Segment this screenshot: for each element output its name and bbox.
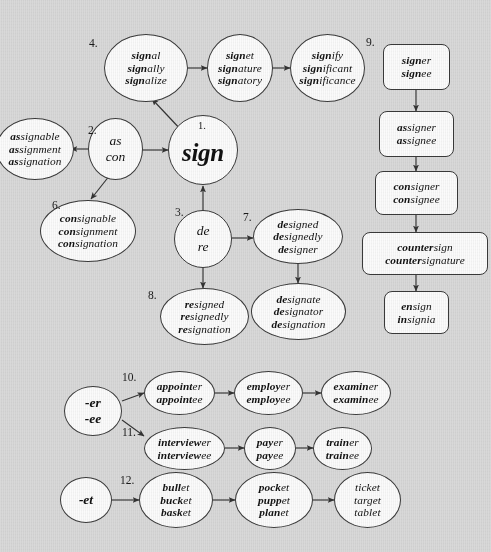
number-label-12: 12. bbox=[120, 474, 134, 486]
node-suffix-et-text: -et bbox=[79, 492, 93, 508]
number-label-1: 1. bbox=[198, 120, 206, 131]
node-consigner-box[interactable]: consigner consignee bbox=[375, 171, 458, 215]
number-label-8: 8. bbox=[148, 289, 157, 301]
node-pocket-group-text: pocket puppet planet bbox=[256, 481, 292, 519]
node-pocket-group[interactable]: pocket puppet planet bbox=[235, 472, 313, 528]
node-bullet-group-text: bullet bucket basket bbox=[158, 481, 193, 519]
node-countersign-box[interactable]: countersign countersignature bbox=[362, 232, 488, 275]
node-consigner-box-text: consigner consignee bbox=[391, 180, 442, 205]
node-suffix-er-ee-text: -er -ee bbox=[85, 395, 101, 427]
node-design-group[interactable]: designed designedly designer bbox=[253, 209, 343, 264]
node-prefix-de-re-text: de re bbox=[197, 223, 210, 255]
node-examiner-group-text: examiner examinee bbox=[331, 380, 380, 405]
node-trainer-group-text: trainer trainee bbox=[324, 436, 361, 461]
node-ticket-group-text: ticket target tablet bbox=[352, 481, 383, 519]
node-ticket-group[interactable]: ticket target tablet bbox=[334, 472, 401, 528]
node-prefix-as-con-text: as con bbox=[106, 133, 126, 165]
node-signet-group-text: signet signature signatory bbox=[216, 49, 264, 87]
node-consign-group-text: consignable consignment consignation bbox=[56, 212, 120, 250]
number-label-9: 9. bbox=[366, 36, 375, 48]
node-appointer-group[interactable]: appointer appointee bbox=[144, 371, 215, 415]
node-interviewer-group-text: interviewer interviewee bbox=[156, 436, 214, 461]
node-hub-sign-label: sign bbox=[182, 139, 224, 167]
node-design-group-text: designed designedly designer bbox=[271, 218, 324, 256]
node-designate-group-text: designate designator designation bbox=[270, 293, 328, 331]
node-countersign-box-text: countersign countersignature bbox=[383, 241, 467, 266]
number-label-4: 4. bbox=[89, 37, 98, 49]
node-examiner-group[interactable]: examiner examinee bbox=[321, 371, 391, 415]
node-employer-group-text: employer employee bbox=[244, 380, 292, 405]
node-trainer-group[interactable]: trainer trainee bbox=[313, 427, 372, 470]
node-signify-group-text: signify significant significance bbox=[297, 49, 357, 87]
node-signal-group-text: signal signally signalize bbox=[123, 49, 169, 87]
node-signer-box-text: signer signee bbox=[399, 54, 433, 79]
node-prefix-de-re[interactable]: de re bbox=[174, 210, 232, 268]
node-appointer-group-text: appointer appointee bbox=[154, 380, 204, 405]
node-suffix-er-ee[interactable]: -er -ee bbox=[64, 386, 122, 436]
node-assigner-box-text: assigner assignee bbox=[395, 121, 439, 146]
node-employer-group[interactable]: employer employee bbox=[234, 371, 303, 415]
node-assign-group-text: assignable assignment assignation bbox=[6, 130, 63, 168]
node-payer-group-text: payer payee bbox=[255, 436, 286, 461]
node-suffix-et[interactable]: -et bbox=[60, 477, 112, 523]
node-assigner-box[interactable]: assigner assignee bbox=[379, 111, 454, 157]
number-label-3: 3. bbox=[175, 206, 184, 218]
arrow-erее-to-appointer bbox=[122, 393, 144, 401]
node-interviewer-group[interactable]: interviewer interviewee bbox=[144, 427, 225, 470]
node-payer-group[interactable]: payer payee bbox=[244, 427, 296, 470]
node-resign-group[interactable]: resigned resignedly resignation bbox=[160, 288, 249, 345]
node-signer-box[interactable]: signer signee bbox=[383, 44, 450, 90]
number-label-10: 10. bbox=[122, 371, 136, 383]
number-label-6: 6. bbox=[52, 199, 61, 211]
node-ensign-box-text: ensign insignia bbox=[396, 300, 438, 325]
number-label-2: 2. bbox=[88, 124, 97, 136]
node-signet-group[interactable]: signet signature signatory bbox=[207, 34, 273, 102]
node-signal-group[interactable]: signal signally signalize bbox=[104, 34, 188, 102]
node-ensign-box[interactable]: ensign insignia bbox=[384, 291, 449, 334]
number-label-7: 7. bbox=[243, 211, 252, 223]
node-designate-group[interactable]: designate designator designation bbox=[251, 283, 346, 340]
node-signify-group[interactable]: signify significant significance bbox=[290, 34, 365, 102]
number-label-11: 11. bbox=[122, 426, 136, 438]
node-bullet-group[interactable]: bullet bucket basket bbox=[139, 472, 213, 528]
node-resign-group-text: resigned resignedly resignation bbox=[176, 298, 233, 336]
